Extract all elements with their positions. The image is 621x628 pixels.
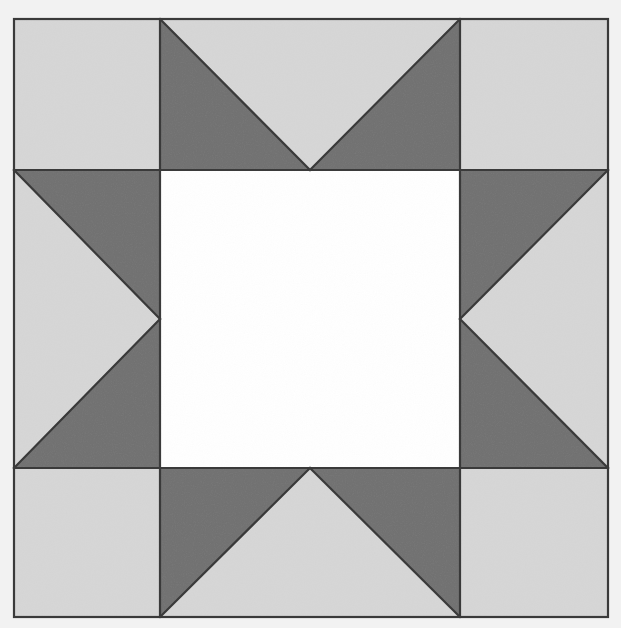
unit-point-bottom	[160, 468, 460, 617]
unit-center-square	[160, 170, 460, 468]
unit-point-top	[160, 19, 460, 170]
unit-corner-bottom-right	[460, 468, 608, 617]
unit-corner-top-left	[14, 19, 160, 170]
unit-point-left	[14, 170, 160, 468]
unit-point-right	[460, 170, 608, 468]
unit-corner-top-right	[460, 19, 608, 170]
quilt-block-image	[0, 0, 621, 628]
unit-corner-bottom-left	[14, 468, 160, 617]
quilt-block	[14, 19, 608, 617]
